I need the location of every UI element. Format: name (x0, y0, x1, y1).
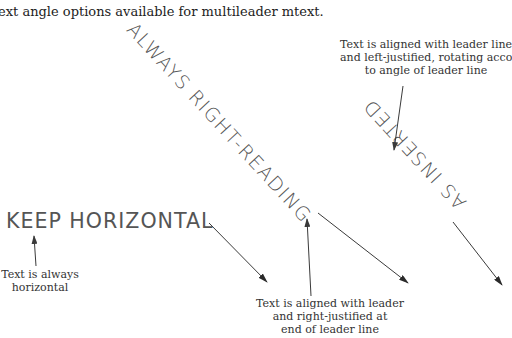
pointer-always-right-reading (307, 219, 311, 296)
leader-lines (0, 0, 512, 338)
pointer-keep-horizontal (34, 236, 36, 266)
always-right-reading-leader (318, 213, 408, 283)
keep-horizontal-leader (209, 223, 267, 282)
as-inserted-leader (453, 222, 502, 285)
pointer-as-inserted (394, 86, 403, 150)
